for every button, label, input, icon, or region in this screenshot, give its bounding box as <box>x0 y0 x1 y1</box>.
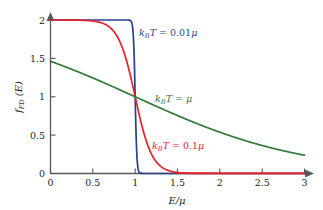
x-tick-label-6: 3 <box>301 177 307 188</box>
ann2-eq: = 0.1 <box>169 140 198 151</box>
x-tick-label-1: 0.5 <box>85 177 100 188</box>
fermi-dirac-figure: 0 0.5 1 1.5 2 2.5 3 0 0.5 1 1.5 2 E/μ fF… <box>0 0 323 210</box>
x-axis-title: E/μ <box>167 195 185 206</box>
ann2-mu: μ <box>198 140 204 151</box>
y-tick-label-1: 0.5 <box>30 130 45 141</box>
y-tick-label-4: 2 <box>39 15 45 26</box>
y-tick-label-3: 1.5 <box>30 53 45 64</box>
y-tick-label-2: 1 <box>39 91 45 102</box>
x-tick-label-5: 2.5 <box>255 177 270 188</box>
ann0-mu: μ <box>191 27 197 38</box>
fermi-dirac-chart: 0 0.5 1 1.5 2 2.5 3 0 0.5 1 1.5 2 E/μ fF… <box>0 0 323 210</box>
x-tick-label-4: 2 <box>217 177 223 188</box>
y-tick-label-0: 0 <box>39 168 45 179</box>
y-axis-title-tail: (E) <box>13 81 24 99</box>
ann1-mu: μ <box>186 93 192 104</box>
y-axis-title-sub: FD <box>18 99 26 111</box>
ann0-eq: = 0.01 <box>156 27 191 38</box>
x-tick-label-2: 1 <box>132 177 138 188</box>
x-tick-label-3: 1.5 <box>170 177 185 188</box>
x-tick-label-0: 0 <box>47 177 53 188</box>
ann1-eq: = <box>172 93 186 104</box>
